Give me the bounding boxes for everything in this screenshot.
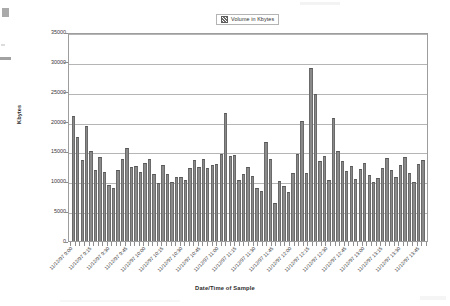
- bar: [206, 168, 209, 241]
- bar: [296, 154, 299, 241]
- legend-label: Volume in Kbytes: [231, 17, 274, 22]
- x-axis-title: Date/Time of Sample: [0, 285, 450, 291]
- bar: [184, 180, 187, 242]
- bar: [336, 151, 339, 241]
- bar: [390, 170, 393, 241]
- bar: [278, 181, 281, 241]
- plot-area: [68, 33, 428, 242]
- bar: [229, 156, 232, 241]
- bar: [116, 170, 119, 241]
- bar: [237, 180, 240, 241]
- bar: [273, 203, 276, 241]
- bar: [408, 173, 411, 241]
- bar: [264, 142, 267, 241]
- bar: [94, 170, 97, 241]
- bar: [255, 188, 258, 241]
- bar: [112, 188, 115, 241]
- legend-swatch-icon: [221, 16, 228, 23]
- bar: [314, 94, 317, 241]
- bar: [309, 68, 312, 241]
- bar: [98, 157, 101, 241]
- bar: [188, 168, 191, 241]
- bar-series: [69, 34, 427, 241]
- bar: [134, 166, 137, 241]
- bar: [166, 174, 169, 241]
- bar: [85, 126, 88, 241]
- bar: [130, 167, 133, 241]
- y-axis-title: Kbytes: [16, 105, 22, 124]
- y-axis-labels: 05000100001500020000250003000035000: [30, 33, 66, 242]
- bar: [368, 175, 371, 241]
- bar: [242, 174, 245, 241]
- bar: [350, 166, 353, 241]
- bar: [76, 137, 79, 242]
- bar-chart: Volume in Kbytes Kbytes 0500010000150002…: [0, 0, 450, 306]
- bar: [152, 174, 155, 241]
- x-axis-labels: 11/12/97 9:0011/12/97 9:1511/12/97 9:301…: [68, 246, 428, 290]
- bar: [300, 121, 303, 241]
- bar: [224, 113, 227, 241]
- bar: [332, 118, 335, 241]
- bar: [318, 161, 321, 241]
- bar: [81, 160, 84, 241]
- chart-legend: Volume in Kbytes: [216, 14, 279, 25]
- bar: [72, 116, 75, 241]
- bar: [260, 191, 263, 241]
